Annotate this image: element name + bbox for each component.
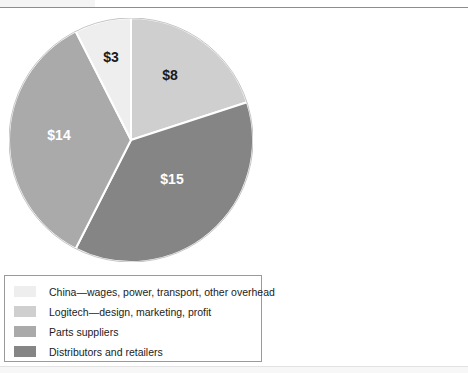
top-divider-rule xyxy=(0,7,468,8)
pie-slice-label-8: $8 xyxy=(162,67,178,83)
pie-slices-group xyxy=(9,18,253,262)
top-tint-band xyxy=(0,0,95,7)
legend-item[interactable]: Parts suppliers xyxy=(5,322,261,341)
legend-swatch-distributors xyxy=(14,346,36,357)
pie-svg: $8$15$14$3 xyxy=(9,18,253,262)
pie-slice-label-3: $3 xyxy=(103,49,119,65)
legend-label-parts-suppliers: Parts suppliers xyxy=(49,326,118,338)
legend-item[interactable]: Distributors and retailers xyxy=(5,342,261,361)
pie-slice-label-15: $15 xyxy=(160,171,184,187)
legend-swatch-china xyxy=(14,286,36,297)
legend-label-logitech: Logitech—design, marketing, profit xyxy=(49,306,211,318)
pie-chart-figure: $8$15$14$3 China—wages, power, transport… xyxy=(0,0,468,373)
pie-slice-label-14: $14 xyxy=(47,127,71,143)
legend-item[interactable]: Logitech—design, marketing, profit xyxy=(5,302,261,321)
pie-chart: $8$15$14$3 xyxy=(9,18,253,262)
bottom-tint-band xyxy=(0,366,468,373)
legend-label-distributors: Distributors and retailers xyxy=(49,346,163,358)
legend-swatch-logitech xyxy=(14,306,36,317)
chart-legend: China—wages, power, transport, other ove… xyxy=(4,275,262,362)
legend-swatch-parts-suppliers xyxy=(14,326,36,337)
legend-item[interactable]: China—wages, power, transport, other ove… xyxy=(5,282,261,301)
legend-label-china: China—wages, power, transport, other ove… xyxy=(49,286,275,298)
